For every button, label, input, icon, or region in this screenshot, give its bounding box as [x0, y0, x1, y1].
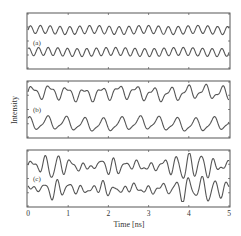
panel-a: (a) — [27, 13, 230, 69]
x-axis-tick-labels: 0 1 2 3 4 5 — [26, 209, 231, 218]
chart-figure: (a) (b) (c) 0 1 2 3 4 5 Time [ns] Intens… — [0, 0, 241, 236]
panel-c-label: (c) — [33, 175, 41, 183]
panel-b-lower-trace — [28, 116, 229, 131]
x-tick-2: 2 — [107, 209, 111, 218]
panel-c-lower-trace — [28, 177, 229, 202]
x-tick-0: 0 — [26, 209, 30, 218]
x-axis-label: Time [ns] — [113, 220, 144, 229]
x-tick-3: 3 — [147, 209, 151, 218]
axis-ticks — [27, 13, 230, 207]
x-tick-4: 4 — [187, 209, 191, 218]
panel-a-lower-trace — [28, 47, 229, 56]
panel-c: (c) — [27, 150, 230, 207]
x-tick-1: 1 — [66, 209, 70, 218]
panel-b-upper-trace — [28, 84, 229, 102]
panel-b: (b) — [27, 81, 230, 138]
panel-a-frame — [27, 13, 230, 69]
panel-a-upper-trace — [28, 25, 229, 34]
panel-b-label: (b) — [33, 106, 42, 114]
y-axis-label: Intensity — [10, 96, 19, 124]
panel-c-upper-trace — [28, 154, 229, 179]
x-tick-5: 5 — [227, 209, 231, 218]
panel-a-label: (a) — [33, 39, 41, 47]
